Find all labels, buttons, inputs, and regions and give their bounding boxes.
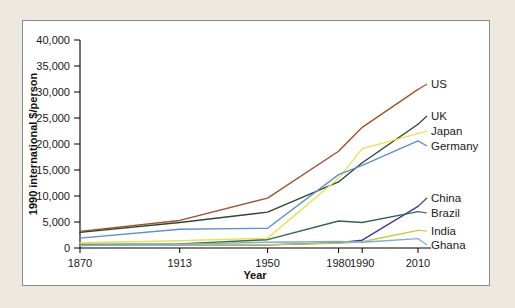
y-tick-group [74, 40, 80, 248]
y-tick-label: 15,000 [36, 164, 70, 176]
series-label-japan: Japan [431, 125, 462, 137]
leader-ghana [418, 239, 427, 245]
y-axis-title: 1990 international $/person [27, 73, 39, 216]
x-axis-title: Year [243, 269, 267, 281]
leader-germany [418, 141, 427, 146]
x-tick-group [80, 248, 418, 253]
series-line-uk [80, 124, 418, 232]
figure-frame: 05,00010,00015,00020,00025,00030,00035,0… [22, 20, 490, 286]
series-label-us: US [431, 78, 447, 90]
series-label-brazil: Brazil [431, 207, 460, 219]
leader-china [418, 198, 427, 206]
leader-uk [418, 116, 427, 124]
leader-india [418, 230, 427, 231]
y-tick-label: 10,000 [36, 190, 70, 202]
x-tick-label: 2010 [406, 257, 430, 269]
series-line-germany [80, 141, 418, 238]
y-tick-label: 5,000 [42, 216, 70, 228]
series-label-group: USUKJapanGermanyChinaBrazilIndiaGhana [418, 78, 479, 251]
y-tick-label: 30,000 [36, 86, 70, 98]
x-tick-label: 1950 [255, 257, 279, 269]
y-tick-label: 0 [64, 242, 70, 254]
y-tick-label: 25,000 [36, 112, 70, 124]
series-label-uk: UK [431, 110, 447, 122]
x-tick-label: 1990 [350, 257, 374, 269]
y-tick-label: 20,000 [36, 138, 70, 150]
y-tick-label: 35,000 [36, 60, 70, 72]
series-label-india: India [431, 225, 457, 237]
series-line-us [80, 89, 418, 231]
leader-japan [418, 131, 427, 134]
series-label-china: China [431, 192, 462, 204]
line-chart: 05,00010,00015,00020,00025,00030,00035,0… [23, 21, 489, 285]
x-tick-label: 1913 [167, 257, 191, 269]
series-group [80, 89, 418, 245]
x-tick-label: 1980 [326, 257, 350, 269]
leader-brazil [418, 212, 427, 213]
series-label-ghana: Ghana [431, 239, 466, 251]
x-tick-label: 1870 [68, 257, 92, 269]
y-tick-label: 40,000 [36, 34, 70, 46]
x-tick-label-group: 187019131950198019902010 [68, 257, 430, 269]
series-label-germany: Germany [431, 140, 479, 152]
y-tick-label-group: 05,00010,00015,00020,00025,00030,00035,0… [36, 34, 70, 254]
leader-us [418, 84, 427, 89]
